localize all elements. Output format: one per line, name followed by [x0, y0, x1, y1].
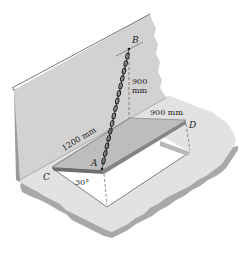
label-point-a: A	[90, 158, 98, 168]
label-angle: 30°	[75, 178, 89, 187]
label-point-c: C	[43, 172, 50, 182]
label-plate-width: 900 mm	[150, 108, 183, 117]
label-vertical-height: 900	[132, 77, 147, 86]
label-vertical-height-unit: mm	[132, 86, 148, 95]
label-point-d: D	[188, 120, 196, 130]
statics-diagram: B A C D 900 mm 900 mm 1200 mm 30°	[0, 0, 244, 256]
label-point-b: B	[131, 35, 139, 45]
point-a-marker	[101, 168, 104, 171]
